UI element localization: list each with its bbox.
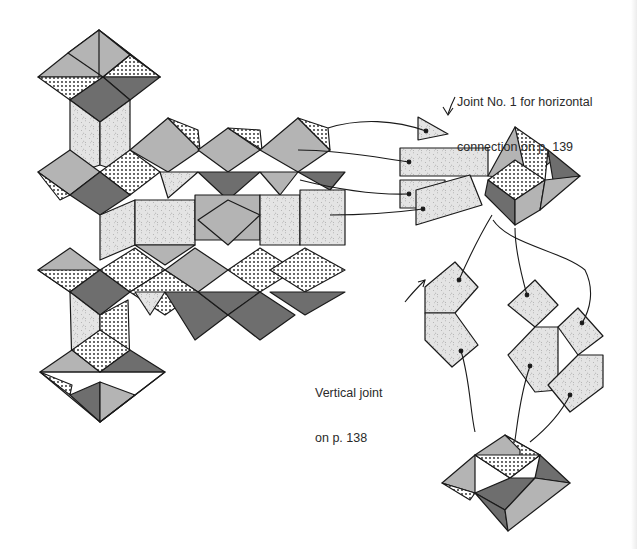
horizontal-joint-label-line1: Joint No. 1 for horizontal <box>457 95 593 110</box>
bottom-pyramid-unit <box>442 435 570 531</box>
vertical-joint-label-line2: on p. 138 <box>315 431 382 446</box>
pyramid-bottom-left <box>40 330 165 422</box>
vertical-joint-label: Vertical joint on p. 138 <box>315 356 382 461</box>
vertical-joint-label-line1: Vertical joint <box>315 386 382 401</box>
page-edge-shadow <box>631 0 637 549</box>
horizontal-joint-label-line2: connection on p. 139 <box>457 140 593 155</box>
pyramid-top-left <box>38 30 160 122</box>
horizontal-joint-label: Joint No. 1 for horizontal connection on… <box>457 65 593 170</box>
vertical-joint-pieces <box>425 262 603 412</box>
